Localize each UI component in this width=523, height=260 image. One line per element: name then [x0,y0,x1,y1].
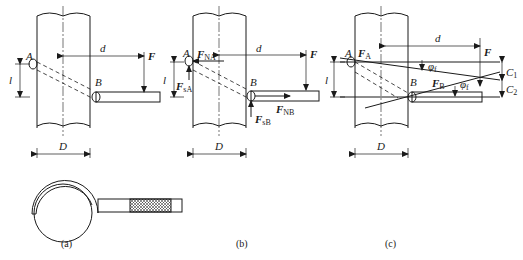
label-C2: C2 [506,83,517,97]
label-l-c: l [325,74,328,86]
panel-c: A B d F l D FA FB φf φf C1 C2 (c) [325,6,517,250]
label-F-b: F [309,48,318,60]
label-l-a: l [9,74,12,86]
label-FsB: FsB [254,113,271,127]
caption-c: (c) [385,238,396,250]
label-D-b: D [214,140,223,152]
label-C1: C1 [506,66,517,80]
label-F-c: F [483,46,492,58]
collar-top-view [32,180,182,242]
caption-a: (a) [61,238,72,250]
label-d-c: d [435,32,441,44]
knurled-grip [130,199,171,212]
label-d-b: d [256,42,262,54]
label-d-a: d [100,42,106,54]
column-c [355,6,408,136]
label-FsA: FsA [175,80,192,94]
label-A-a: A [25,50,33,62]
column-a [37,6,90,136]
label-FA: FA [357,47,371,61]
label-D-a: D [58,140,67,152]
label-FNA: FNA [196,48,216,62]
label-FB: FB [431,77,445,91]
label-B-b: B [250,76,257,88]
label-FNB: FNB [275,103,294,117]
friction-collar-diagram: A B d F l D (a) [0,0,523,260]
label-D-c: D [376,140,385,152]
label-A-b: A [182,47,190,59]
label-B-c: B [410,76,417,88]
caption-b: (b) [236,238,248,250]
friction-line-A [340,58,500,80]
label-l-b: l [163,74,166,86]
panel-b: A B d F l D FNA FsA FNB FsB (b) [163,6,319,250]
column-b [193,6,246,136]
label-A-c: A [344,47,352,59]
label-F-a: F [147,50,156,62]
label-B-a: B [95,76,102,88]
panel-a: A B d F l D (a) [9,6,182,250]
